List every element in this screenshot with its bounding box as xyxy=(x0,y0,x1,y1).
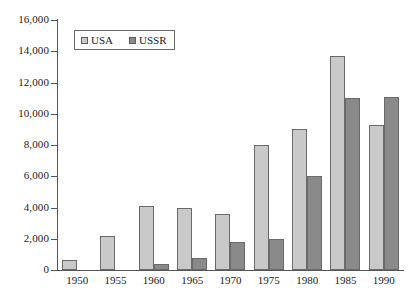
y-axis-label-wrap: 16,000 xyxy=(0,14,49,25)
y-axis-tick-label: 4,000 xyxy=(3,202,49,213)
plot-area xyxy=(58,20,403,270)
bar-ussr-1975 xyxy=(269,239,284,270)
bar-usa-1965 xyxy=(177,208,192,271)
y-axis-label-wrap: 2,000 xyxy=(0,233,49,244)
bar-usa-1990 xyxy=(369,125,384,270)
y-axis-tick-label: 0 xyxy=(3,264,49,275)
bar-usa-1985 xyxy=(330,56,345,270)
legend-item-usa: USA xyxy=(81,34,113,46)
legend-label-usa: USA xyxy=(91,34,113,46)
y-axis-tick xyxy=(51,20,57,21)
chart-legend: USA USSR xyxy=(74,30,175,50)
bar-ussr-1960 xyxy=(154,264,169,270)
bar-usa-1970 xyxy=(215,214,230,270)
y-axis-tick xyxy=(51,145,57,146)
bar-group xyxy=(326,20,364,270)
y-axis-tick xyxy=(51,208,57,209)
y-axis-tick-label: 16,000 xyxy=(3,14,49,25)
bar-ussr-1985 xyxy=(345,98,360,270)
y-axis-label-wrap: 6,000 xyxy=(0,170,49,181)
x-axis-tick-label: 1965 xyxy=(173,274,211,286)
bar-group xyxy=(365,20,403,270)
y-axis-tick xyxy=(51,83,57,84)
bar-group xyxy=(96,20,134,270)
bar-group xyxy=(135,20,173,270)
y-axis-tick xyxy=(51,51,57,52)
y-axis-label-wrap: 10,000 xyxy=(0,108,49,119)
x-axis-tick-label: 1970 xyxy=(211,274,249,286)
bar-ussr-1980 xyxy=(307,176,322,270)
legend-item-ussr: USSR xyxy=(129,34,167,46)
y-axis-tick-label: 2,000 xyxy=(3,233,49,244)
x-axis-line xyxy=(57,270,404,271)
y-axis-tick-label: 6,000 xyxy=(3,170,49,181)
bar-usa-1955 xyxy=(100,236,115,270)
bar-group xyxy=(173,20,211,270)
legend-label-ussr: USSR xyxy=(139,34,167,46)
y-axis-tick xyxy=(51,114,57,115)
bar-group xyxy=(250,20,288,270)
x-axis-tick-label: 1980 xyxy=(288,274,326,286)
legend-swatch-usa-icon xyxy=(81,37,88,44)
bar-group xyxy=(288,20,326,270)
y-axis-label-wrap: 8,000 xyxy=(0,139,49,150)
x-axis-tick-label: 1955 xyxy=(96,274,134,286)
y-axis-tick xyxy=(51,239,57,240)
bar-usa-1980 xyxy=(292,129,307,270)
bar-group xyxy=(58,20,96,270)
bar-usa-1950 xyxy=(62,260,77,270)
y-axis-label-wrap: 0 xyxy=(0,264,49,275)
bar-ussr-1965 xyxy=(192,258,207,271)
y-axis-tick-label: 10,000 xyxy=(3,108,49,119)
y-axis-label-wrap: 12,000 xyxy=(0,77,49,88)
x-axis-tick-label: 1950 xyxy=(58,274,96,286)
bar-ussr-1970 xyxy=(230,242,245,270)
bar-usa-1960 xyxy=(139,206,154,270)
y-axis-tick-label: 8,000 xyxy=(3,139,49,150)
x-axis-tick-label: 1985 xyxy=(326,274,364,286)
y-axis-tick xyxy=(51,270,57,271)
bar-chart: 02,0004,0006,0008,00010,00012,00014,0001… xyxy=(0,0,409,306)
y-axis-label-wrap: 14,000 xyxy=(0,45,49,56)
y-axis-tick-label: 12,000 xyxy=(3,77,49,88)
y-axis-tick xyxy=(51,176,57,177)
x-axis-tick-label: 1960 xyxy=(135,274,173,286)
bar-usa-1975 xyxy=(254,145,269,270)
y-axis-label-wrap: 4,000 xyxy=(0,202,49,213)
x-axis-tick-label: 1990 xyxy=(365,274,403,286)
bar-ussr-1990 xyxy=(384,97,399,270)
y-axis-tick-label: 14,000 xyxy=(3,45,49,56)
bar-group xyxy=(211,20,249,270)
legend-swatch-ussr-icon xyxy=(129,37,136,44)
x-axis-tick-label: 1975 xyxy=(250,274,288,286)
